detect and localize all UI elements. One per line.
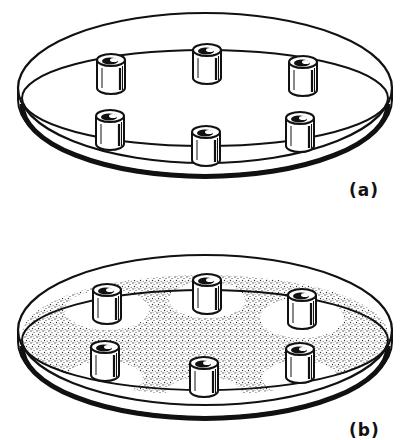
cylinder-icon xyxy=(96,110,124,150)
panel-label-a: (a) xyxy=(349,180,379,200)
panel-label-b: (b) xyxy=(349,420,380,440)
cylinder-icon xyxy=(289,56,317,96)
cylinder-icon xyxy=(97,54,125,94)
cylinder-icon xyxy=(192,126,220,166)
petri-dish-a xyxy=(18,13,392,176)
petri-dish-b xyxy=(18,255,392,418)
cylinder-icon xyxy=(286,343,314,383)
cylinder-icon xyxy=(93,284,121,324)
cylinder-icon xyxy=(288,289,316,329)
cylinder-icon xyxy=(91,341,119,381)
cylinder-icon xyxy=(193,44,221,84)
cylinder-icon xyxy=(286,112,314,152)
cylinder-icon xyxy=(193,274,221,314)
cylinder-icon xyxy=(190,357,218,397)
